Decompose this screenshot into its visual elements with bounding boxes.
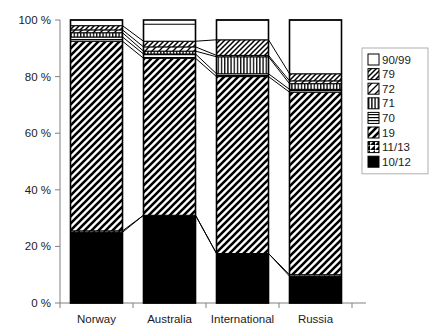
chart-legend: 90/99797271701911/1310/12 <box>362 48 428 174</box>
bar-segment <box>217 253 269 303</box>
bar-segment <box>217 57 269 74</box>
y-axis-tick-label: 80 % <box>25 71 51 83</box>
bar-segment <box>290 84 342 90</box>
stacked-bar <box>71 20 123 303</box>
legend-item: 11/13 <box>368 141 410 153</box>
y-axis-tick-label: 0 % <box>31 297 51 309</box>
bar-segment <box>290 276 342 303</box>
bar-segment <box>290 74 342 81</box>
bar-segment <box>144 47 196 51</box>
x-axis-category-label: Norway <box>77 313 116 325</box>
legend-item: 72 <box>368 83 395 95</box>
legend-swatch <box>368 69 379 80</box>
stacked-bar <box>290 20 342 303</box>
bar-segment <box>144 215 196 303</box>
stacked-bar <box>144 20 196 303</box>
legend-item: 19 <box>368 127 395 139</box>
bar-segment <box>217 20 269 40</box>
bar-segment <box>71 232 123 303</box>
legend-swatch <box>368 98 379 109</box>
bar-segment <box>144 41 196 47</box>
legend-label: 70 <box>382 112 395 124</box>
y-axis-tick-label: 100 % <box>18 14 51 26</box>
legend-label: 72 <box>382 83 395 95</box>
x-axis-category-label: International <box>211 313 274 325</box>
legend-swatch <box>368 127 379 138</box>
y-axis-tick-label: 20 % <box>25 240 51 252</box>
bar-segment <box>144 58 196 215</box>
bar-segment <box>144 24 196 41</box>
y-axis-tick-label: 60 % <box>25 127 51 139</box>
legend-swatch <box>368 54 379 65</box>
legend-label: 10/12 <box>382 156 411 168</box>
bar-segment <box>290 92 342 275</box>
stacked-bar-chart: 0 %20 %40 %60 %80 %100 % NorwayAustralia… <box>0 0 439 336</box>
x-axis-category-label: Russia <box>298 313 334 325</box>
legend-label: 71 <box>382 97 395 109</box>
legend-swatch <box>368 112 379 123</box>
legend-swatch <box>368 142 379 153</box>
stacked-bar <box>217 20 269 303</box>
bar-segment <box>217 77 269 254</box>
legend-label: 90/99 <box>382 54 411 66</box>
bar-segment <box>71 20 123 26</box>
legend-item: 71 <box>368 97 395 109</box>
bar-segment <box>144 54 196 58</box>
legend-item: 79 <box>368 68 395 80</box>
legend-item: 90/99 <box>368 54 411 66</box>
bar-segment <box>71 33 123 37</box>
bar-segment <box>71 37 123 41</box>
legend-item: 70 <box>368 112 395 124</box>
y-axis-tick-label: 40 % <box>25 184 51 196</box>
chart-canvas: 0 %20 %40 %60 %80 %100 % NorwayAustralia… <box>0 0 439 336</box>
legend-item: 10/12 <box>368 156 411 168</box>
bar-segment <box>217 40 269 56</box>
bar-segment <box>71 41 123 231</box>
legend-label: 79 <box>382 68 395 80</box>
bar-segment <box>71 26 123 30</box>
legend-swatch <box>368 156 379 167</box>
x-axis-category-label: Australia <box>147 313 192 325</box>
legend-swatch <box>368 83 379 94</box>
legend-label: 11/13 <box>382 141 410 153</box>
legend-label: 19 <box>382 127 395 139</box>
bar-segment <box>290 20 342 74</box>
